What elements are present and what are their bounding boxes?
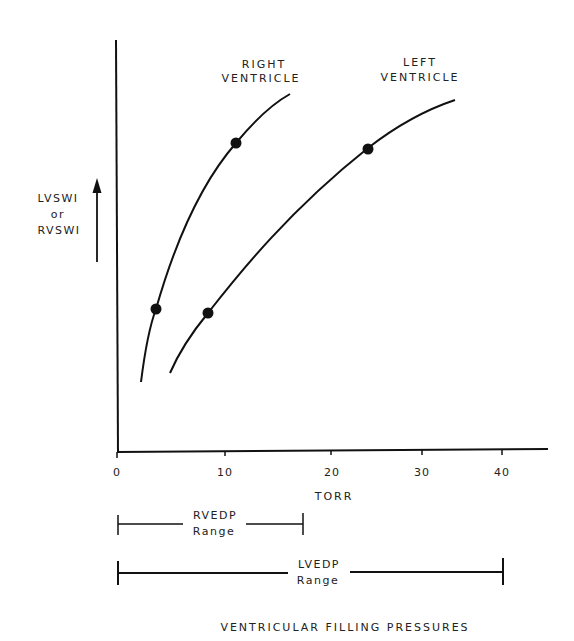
left-ventricle-label: LEFT VENTRICLE	[380, 56, 459, 84]
right-ventricle-label: RIGHT VENTRICLE	[221, 58, 300, 85]
series-label-line: LEFT	[403, 56, 437, 69]
series-label-line: VENTRICLE	[221, 72, 300, 85]
y-axis-label: LVSWI or RVSWI	[37, 192, 80, 237]
x-tick-label: 20	[324, 466, 340, 479]
y-label-line: RVSWI	[37, 224, 80, 237]
x-tick-label: 40	[494, 466, 510, 479]
x-tick-labels: 0 10 20 30 40	[113, 466, 510, 479]
rvedp-range-label: Range	[193, 525, 235, 538]
up-arrow-icon	[93, 178, 102, 262]
left-ventricle-point	[203, 308, 214, 319]
x-tick-label: 0	[113, 466, 121, 479]
lvedp-range-label: Range	[297, 574, 339, 587]
x-axis	[117, 449, 548, 452]
y-axis	[116, 40, 118, 452]
series-label-line: RIGHT	[242, 58, 286, 71]
left-ventricle-curve	[170, 100, 455, 373]
chart-title: VENTRICULAR FILLING PRESSURES	[220, 621, 469, 634]
x-tick-label: 10	[217, 466, 233, 479]
y-label-line: or	[51, 208, 65, 221]
lvedp-range-label: LVEDP	[298, 558, 340, 571]
y-label-line: LVSWI	[37, 192, 78, 205]
x-axis-label: TORR	[314, 490, 354, 503]
rvedp-range-label: RVEDP	[193, 509, 237, 522]
x-tick-label: 30	[414, 466, 430, 479]
series-label-line: VENTRICLE	[380, 71, 459, 84]
right-ventricle-point	[231, 138, 242, 149]
chart: 0 10 20 30 40 TORR LVSWI or RVSWI RIGHT …	[0, 0, 574, 641]
left-ventricle-point	[363, 144, 374, 155]
right-ventricle-point	[151, 304, 162, 315]
right-ventricle-curve	[141, 94, 290, 382]
